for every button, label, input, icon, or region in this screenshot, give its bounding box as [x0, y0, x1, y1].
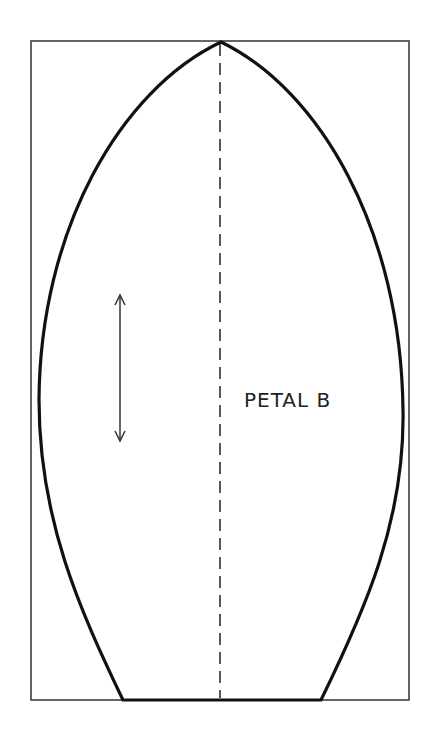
grainline-arrow-icon [115, 295, 125, 441]
petal-pattern-diagram [0, 0, 439, 739]
piece-label: PETAL B [244, 388, 331, 412]
petal-outline [39, 42, 403, 700]
